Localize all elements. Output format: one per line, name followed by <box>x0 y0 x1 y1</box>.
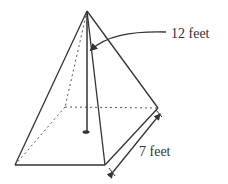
hidden-edge-back-left-to-front-left <box>15 107 65 165</box>
edge-apex-to-back-right <box>87 11 158 108</box>
base-dimension-line <box>113 114 160 172</box>
edge-apex-to-front-left <box>15 11 87 165</box>
hidden-edge-back-left-to-back-right <box>65 107 158 108</box>
height-leader-arrow <box>91 32 166 50</box>
base-side-label: 7 feet <box>139 145 170 159</box>
height-label: 12 feet <box>171 27 209 41</box>
dimension-tick-bottom <box>109 168 115 176</box>
edge-apex-to-front-right <box>87 11 105 165</box>
hidden-edge-apex-to-back-left <box>65 11 87 107</box>
pyramid-diagram: 12 feet 7 feet <box>0 0 228 184</box>
height-foot-marker <box>83 130 90 134</box>
